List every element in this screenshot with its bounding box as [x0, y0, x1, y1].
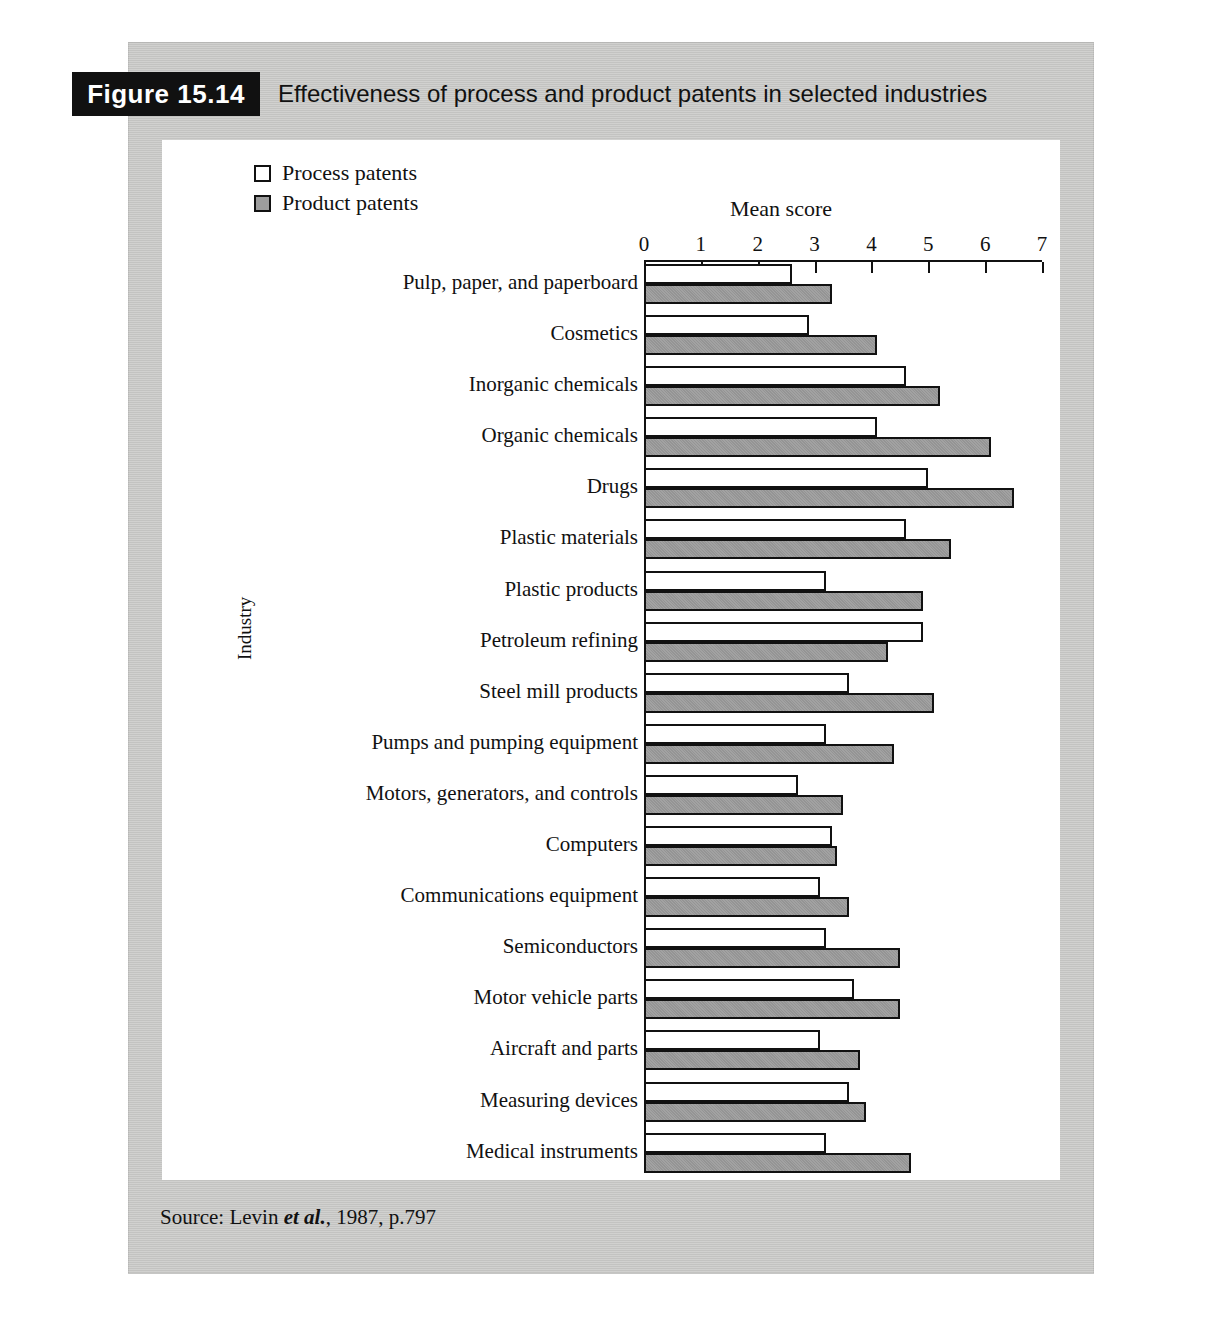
bar-product[interactable] [644, 539, 951, 559]
bar-group: Plastic products [644, 569, 1044, 620]
bar-process[interactable] [644, 979, 854, 999]
bar-group: Motors, generators, and controls [644, 773, 1044, 824]
x-axis-title: Mean score [162, 196, 1060, 222]
category-label: Motor vehicle parts [474, 985, 638, 1010]
bar-group: Communications equipment [644, 875, 1044, 926]
bar-product[interactable] [644, 1153, 911, 1173]
bar-product[interactable] [644, 386, 940, 406]
bar-process[interactable] [644, 877, 820, 897]
category-label: Semiconductors [503, 934, 638, 959]
bar-process[interactable] [644, 1030, 820, 1050]
bar-group: Plastic materials [644, 517, 1044, 568]
bar-process[interactable] [644, 826, 832, 846]
bar-group: Computers [644, 824, 1044, 875]
category-label: Motors, generators, and controls [366, 781, 638, 806]
x-tick-label: 3 [809, 232, 820, 257]
source-prefix: Source: Levin [160, 1205, 284, 1229]
bar-group: Cosmetics [644, 313, 1044, 364]
x-tick-label: 7 [1037, 232, 1048, 257]
category-label: Drugs [587, 474, 638, 499]
category-label: Pumps and pumping equipment [371, 730, 638, 755]
bar-product[interactable] [644, 591, 923, 611]
legend-swatch-process-icon [254, 165, 271, 182]
bar-product[interactable] [644, 488, 1014, 508]
bar-product[interactable] [644, 846, 837, 866]
legend-item-process[interactable]: Process patents [254, 158, 418, 188]
bar-process[interactable] [644, 264, 792, 284]
figure-number-label: Figure 15.14 [87, 79, 245, 110]
chart-panel: Process patents Product patents Mean sco… [162, 140, 1060, 1180]
x-tick-label: 4 [866, 232, 877, 257]
category-label: Computers [546, 832, 638, 857]
source-note: Source: Levin et al., 1987, p.797 [160, 1205, 436, 1230]
bar-group: Aircraft and parts [644, 1028, 1044, 1079]
bar-product[interactable] [644, 1050, 860, 1070]
bar-groups: Pulp, paper, and paperboardCosmeticsInor… [644, 262, 1044, 1182]
bar-product[interactable] [644, 437, 991, 457]
bar-product[interactable] [644, 642, 888, 662]
plot-area: 01234567 Pulp, paper, and paperboardCosm… [644, 232, 1046, 1152]
figure-title: Effectiveness of process and product pat… [278, 80, 987, 108]
bar-product[interactable] [644, 897, 849, 917]
category-label: Pulp, paper, and paperboard [403, 270, 638, 295]
bar-group: Inorganic chemicals [644, 364, 1044, 415]
category-label: Measuring devices [480, 1088, 638, 1113]
bar-group: Motor vehicle parts [644, 977, 1044, 1028]
bar-product[interactable] [644, 335, 877, 355]
category-label: Medical instruments [466, 1139, 638, 1164]
bar-group: Pulp, paper, and paperboard [644, 262, 1044, 313]
bar-process[interactable] [644, 775, 798, 795]
figure-number-tag: Figure 15.14 [72, 72, 260, 116]
bar-process[interactable] [644, 1133, 826, 1153]
source-suffix: , 1987, p.797 [326, 1205, 436, 1229]
bar-product[interactable] [644, 693, 934, 713]
category-label: Plastic products [504, 577, 638, 602]
y-axis-title: Industry [234, 597, 256, 660]
x-tick-label: 0 [639, 232, 650, 257]
figure-page: Figure 15.14 Effectiveness of process an… [0, 0, 1222, 1319]
x-tick-label: 1 [696, 232, 707, 257]
bar-group: Semiconductors [644, 926, 1044, 977]
bar-product[interactable] [644, 795, 843, 815]
bar-group: Organic chemicals [644, 415, 1044, 466]
bar-process[interactable] [644, 468, 928, 488]
category-label: Steel mill products [479, 679, 638, 704]
bar-process[interactable] [644, 571, 826, 591]
category-label: Petroleum refining [480, 628, 638, 653]
source-emphasis: et al. [284, 1205, 326, 1229]
bar-process[interactable] [644, 315, 809, 335]
bar-process[interactable] [644, 1082, 849, 1102]
x-tick-label: 6 [980, 232, 991, 257]
bar-group: Pumps and pumping equipment [644, 722, 1044, 773]
bar-process[interactable] [644, 673, 849, 693]
bar-product[interactable] [644, 1102, 866, 1122]
category-label: Inorganic chemicals [469, 372, 638, 397]
bar-product[interactable] [644, 744, 894, 764]
category-label: Plastic materials [500, 525, 638, 550]
legend-label-process: Process patents [282, 160, 417, 186]
bar-group: Steel mill products [644, 671, 1044, 722]
bar-product[interactable] [644, 999, 900, 1019]
bar-group: Medical instruments [644, 1131, 1044, 1182]
bar-product[interactable] [644, 284, 832, 304]
x-tick-label: 2 [752, 232, 763, 257]
bar-process[interactable] [644, 622, 923, 642]
bar-process[interactable] [644, 724, 826, 744]
x-axis-title-text: Mean score [730, 196, 832, 221]
bar-product[interactable] [644, 948, 900, 968]
x-tick-label: 5 [923, 232, 934, 257]
category-label: Aircraft and parts [490, 1036, 638, 1061]
bar-process[interactable] [644, 366, 906, 386]
bar-process[interactable] [644, 928, 826, 948]
bar-process[interactable] [644, 519, 906, 539]
bar-group: Petroleum refining [644, 620, 1044, 671]
bar-group: Measuring devices [644, 1080, 1044, 1131]
bar-process[interactable] [644, 417, 877, 437]
bar-group: Drugs [644, 466, 1044, 517]
category-label: Organic chemicals [482, 423, 638, 448]
category-label: Cosmetics [551, 321, 639, 346]
category-label: Communications equipment [401, 883, 638, 908]
